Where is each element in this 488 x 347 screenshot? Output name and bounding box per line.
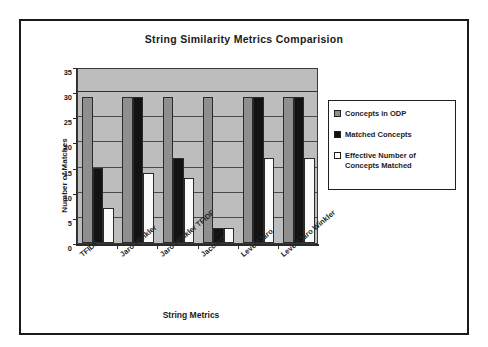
chart-title: String Similarity Metrics Comparision <box>21 33 467 45</box>
bar-group <box>118 69 158 243</box>
x-tick-mark <box>238 245 239 249</box>
figure-frame: String Similarity Metrics Comparision Nu… <box>19 19 469 335</box>
y-axis-ticks: 05101520253035 <box>57 68 77 244</box>
bar <box>243 97 254 243</box>
legend-item: Concepts in ODP <box>334 109 450 119</box>
legend-item-label: Concepts in ODP <box>345 109 406 119</box>
bar <box>283 97 294 243</box>
bar-group <box>158 69 198 243</box>
legend-swatch-gray-icon <box>334 110 341 117</box>
bars-layer <box>78 69 317 243</box>
legend-item-label: Matched Concepts <box>345 130 412 140</box>
bar <box>294 97 305 243</box>
x-axis-title: String Metrics <box>61 310 321 320</box>
bar <box>93 168 104 243</box>
bar-group <box>78 69 118 243</box>
bar-group <box>279 69 319 243</box>
bar <box>163 97 174 243</box>
bar <box>253 97 264 243</box>
legend-item: Matched Concepts <box>334 130 450 140</box>
x-tick-mark <box>117 245 118 249</box>
chart-legend: Concepts in ODP Matched Concepts Effecti… <box>328 100 456 190</box>
legend-swatch-white-icon <box>334 152 341 159</box>
bar <box>103 208 114 243</box>
x-tick-mark <box>198 245 199 249</box>
bar-group <box>239 69 279 243</box>
bar <box>122 97 133 243</box>
bar <box>82 97 93 243</box>
legend-item-label: Effective Number of Concepts Matched <box>345 151 450 171</box>
x-tick-mark <box>278 245 279 249</box>
bar <box>133 97 144 243</box>
legend-item: Effective Number of Concepts Matched <box>334 151 450 171</box>
x-tick-mark <box>157 245 158 249</box>
legend-swatch-black-icon <box>334 131 341 138</box>
